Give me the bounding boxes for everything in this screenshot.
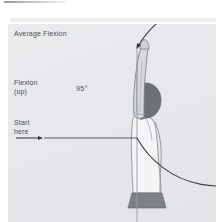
label-average-flexion: Average Flexion: [14, 30, 67, 39]
label-flexion-up: Flexion (up): [14, 79, 38, 96]
label-angle-value: 95°: [76, 84, 88, 93]
waistband: [128, 193, 166, 208]
label-start-here: Start here: [14, 119, 30, 136]
flexion-diagram: Average Flexion Flexion (up) Start here …: [0, 0, 222, 222]
